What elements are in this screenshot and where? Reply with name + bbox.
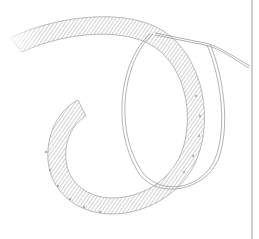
spiral-feather-illustration <box>0 0 259 239</box>
right-edge-line <box>251 0 253 239</box>
